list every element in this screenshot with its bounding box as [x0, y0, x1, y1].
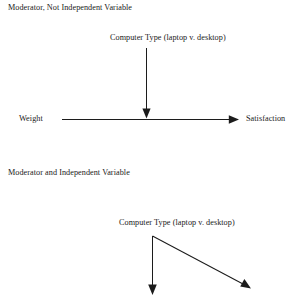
- section-heading-moderator-not-independent: Moderator, Not Independent Variable: [8, 3, 132, 12]
- arrow-layer: [0, 0, 304, 298]
- main-effect-arrow-weight-satisfaction: [62, 115, 239, 124]
- section-heading-moderator-and-independent: Moderator and Independent Variable: [8, 168, 130, 177]
- predictor-label-weight: Weight: [19, 114, 43, 123]
- outcome-label-satisfaction: Satisfaction: [246, 114, 285, 123]
- moderator-arrow-bottom-diagonal: [153, 236, 252, 289]
- moderator-arrow-bottom-vertical: [148, 236, 157, 295]
- diagram-canvas: Moderator, Not Independent Variable Comp…: [0, 0, 304, 298]
- moderator-label-bottom: Computer Type (laptop v. desktop): [119, 218, 235, 227]
- moderator-label-top: Computer Type (laptop v. desktop): [110, 33, 226, 42]
- moderator-arrow-top: [142, 48, 150, 119]
